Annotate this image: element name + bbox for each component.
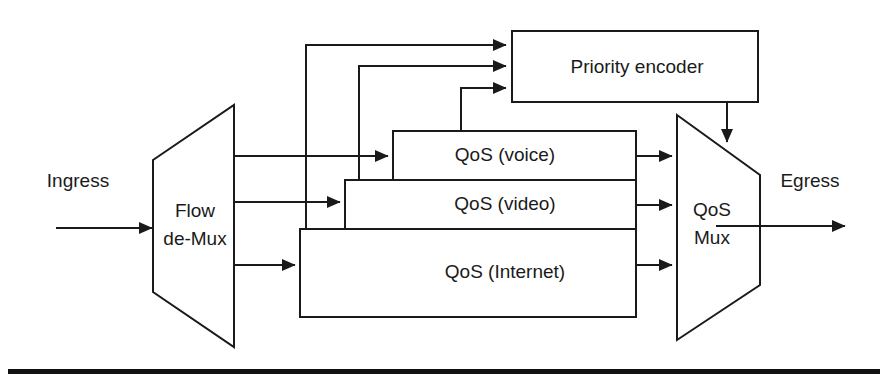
qos-internet-label: QoS (Internet)	[445, 261, 565, 282]
diagram-canvas: Ingress Egress Flow de-Mux QoS Mux Prior…	[0, 0, 885, 379]
voice-to-encoder-wire	[461, 88, 506, 131]
qos-block-diagram: Ingress Egress Flow de-Mux QoS Mux Prior…	[0, 0, 885, 379]
priority-encoder-label: Priority encoder	[570, 56, 704, 77]
flow-demux-label-line1: Flow	[175, 200, 215, 221]
qos-mux-label-line1: QoS	[693, 199, 731, 220]
qos-video-label: QoS (video)	[454, 193, 555, 214]
flow-demux-shape[interactable]	[153, 105, 234, 347]
ingress-label: Ingress	[47, 170, 109, 191]
egress-label: Egress	[780, 170, 839, 191]
bottom-divider-rule	[8, 369, 880, 374]
flow-demux-label-line2: de-Mux	[163, 228, 227, 249]
qos-mux-label-line2: Mux	[694, 227, 730, 248]
qos-voice-label: QoS (voice)	[455, 144, 555, 165]
